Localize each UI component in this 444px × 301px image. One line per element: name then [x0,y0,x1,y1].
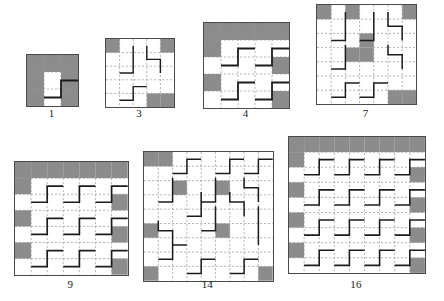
shaded-cell [255,23,272,40]
s-tile [158,245,187,259]
figure-3-caption: 3 [105,107,173,119]
shaded-cell [334,137,349,152]
shaded-cell [15,242,31,258]
figure-7-caption: 7 [316,107,415,119]
shaded-cell [402,90,416,104]
shaded-cells [106,39,174,107]
shaded-cell [388,90,402,104]
shaded-cell [317,5,331,19]
shaded-cell [345,5,359,19]
shaded-cell [272,57,289,74]
shaded-cell [158,152,172,166]
shaded-cell [289,152,304,167]
shaded-cell [204,74,221,91]
s-tile [388,45,402,69]
figure-9-grid [14,161,129,276]
shaded-cell [319,137,334,152]
shaded-cell [112,162,128,178]
shaded-cell [410,197,425,212]
shaded-cell [27,72,44,89]
figure-16-grid [288,136,426,274]
s-tile [120,46,134,73]
shaded-cell [79,162,95,178]
figure-4 [203,22,288,107]
figure-1 [26,54,77,105]
figure-3-grid [105,38,175,108]
shaded-cell [215,223,229,237]
s-tile [187,192,201,216]
s-tile [215,159,244,173]
figure-9-caption: 9 [14,278,127,290]
shaded-cell [31,162,47,178]
shaded-cell [27,55,44,72]
s-tile [147,46,161,73]
shaded-cell [289,137,304,152]
shaded-cell [289,243,304,258]
shaded-cell [47,162,63,178]
s-tile [201,178,215,202]
figure-14-grid [143,151,274,282]
shaded-cell [289,212,304,227]
shaded-cell [112,194,128,210]
shaded-cell [15,162,31,178]
s-tile [230,192,244,216]
shaded-cell [304,137,319,152]
shaded-cell [272,91,289,108]
shaded-cell [410,167,425,182]
shaded-cell [380,137,395,152]
s-tile [201,206,215,230]
shaded-cell [402,5,416,19]
shaded-cell [272,23,289,40]
shaded-cell [395,137,410,152]
s-tile [158,221,172,245]
figure-3 [105,38,173,106]
figure-14 [143,151,272,280]
s-tile [331,12,345,40]
shaded-cell [360,48,374,62]
shaded-cell [112,259,128,275]
shaded-cell [15,210,31,226]
shaded-cell [215,181,229,195]
shaded-cell [160,93,174,107]
shaded-cell [204,40,221,57]
shaded-cell [112,226,128,242]
shaded-cell [15,178,31,194]
s-tile [388,12,402,40]
figure-7 [316,4,415,103]
s-tile [331,45,345,69]
shaded-cell [61,89,78,106]
shaded-cell [289,182,304,197]
figure-16 [288,136,424,272]
shaded-cell [63,162,79,178]
tiles [120,46,161,100]
shaded-cells [204,23,289,108]
shaded-cell [144,152,158,166]
shaded-cell [345,48,359,62]
shaded-cell [160,39,174,53]
shaded-cell [410,228,425,243]
figure-panel: 134791416 [0,0,444,301]
grid-lines [144,152,273,281]
shaded-cell [173,181,187,195]
s-tile [360,83,388,97]
figure-7-grid [316,4,417,105]
figure-4-grid [203,22,290,109]
shaded-cell [95,162,111,178]
shaded-cell [106,39,120,53]
shaded-cell [364,137,379,152]
s-tile [187,259,216,273]
s-tile [158,178,172,202]
shaded-cell [410,258,425,273]
figure-9 [14,161,127,274]
s-tile [244,178,258,202]
shaded-cell [410,137,425,152]
shaded-cell [27,89,44,106]
shaded-cell [238,23,255,40]
shaded-cell [144,223,158,237]
shaded-cell [221,23,238,40]
shaded-cell [147,93,161,107]
figure-1-caption: 1 [26,107,77,119]
figure-4-caption: 4 [203,107,288,119]
shaded-cell [349,137,364,152]
figure-16-caption: 16 [288,278,424,290]
